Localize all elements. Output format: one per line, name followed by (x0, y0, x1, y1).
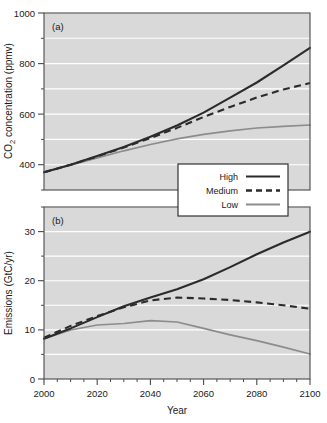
panel-a-label: (a) (52, 21, 64, 32)
legend-label-low: Low (221, 200, 238, 210)
xtick-2000: 2000 (33, 388, 54, 399)
x-axis-label: Year (167, 405, 188, 416)
svg-text:Emissions (GtC/yr): Emissions (GtC/yr) (3, 251, 14, 335)
panel-b-label: (b) (52, 215, 64, 226)
panel-b-plot-background (44, 207, 310, 379)
panel-b-ytick-20: 20 (24, 275, 35, 286)
panel-a-ylabel-suffix: concentration (ppmv) (3, 43, 14, 140)
panel-b-ytick-30: 30 (24, 226, 35, 237)
panel-a-ytick-600: 600 (19, 109, 35, 120)
xtick-2060: 2060 (193, 388, 214, 399)
panel-b-ytick-0: 0 (30, 374, 35, 385)
legend-label-medium: Medium (206, 186, 238, 196)
legend-label-high: High (219, 172, 238, 182)
panel-a-ylabel-prefix: CO (3, 144, 14, 159)
two-panel-line-chart: 1000 800 600 400 (a) CO2 concentration (… (0, 0, 327, 423)
xtick-2080: 2080 (246, 388, 267, 399)
figure-container: 1000 800 600 400 (a) CO2 concentration (… (0, 0, 327, 423)
panel-a-ytick-800: 800 (19, 58, 35, 69)
xtick-2040: 2040 (140, 388, 161, 399)
panel-b-ylabel: Emissions (GtC/yr) (3, 251, 14, 335)
legend: High Medium Low (178, 164, 288, 216)
panel-a-ytick-1000: 1000 (14, 8, 35, 19)
xtick-2100: 2100 (299, 388, 320, 399)
xtick-2020: 2020 (87, 388, 108, 399)
panel-b-ytick-10: 10 (24, 324, 35, 335)
panel-a: 1000 800 600 400 (a) CO2 concentration (… (3, 8, 310, 191)
panel-a-ytick-400: 400 (19, 159, 35, 170)
